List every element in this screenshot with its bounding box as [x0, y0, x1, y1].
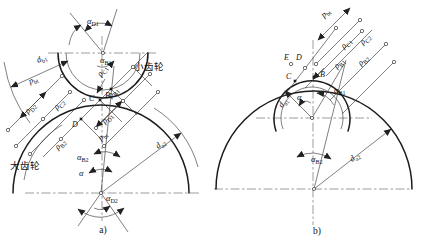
dimension-line	[326, 30, 372, 76]
point-label-b-b: B	[320, 70, 325, 79]
dimension-swing-arc-a	[4, 62, 30, 123]
rho-c1-arrow-a	[97, 79, 105, 93]
caption-b: b)	[313, 226, 321, 237]
d-a2-dim-line-a	[101, 133, 181, 193]
radial-line-O2-B	[101, 66, 114, 193]
point-label-e-b: E	[283, 53, 289, 62]
label-p-bt-b: pbt	[318, 6, 333, 21]
gear-diagram-canvas: αD1 αB1 db1 pbt ρD2 ρC2 ρC1 ρB1 ρD1 ρB2 …	[0, 0, 422, 251]
label-alpha-d1: αD1	[87, 16, 99, 27]
gear-outer-arc-a	[154, 108, 198, 167]
alpha-arc-a	[89, 169, 112, 173]
ring-gear-tip-arc-b	[216, 91, 412, 189]
label-alpha-b2-a: αB2	[77, 152, 88, 163]
label-d-a2-b: da2	[347, 150, 362, 165]
point-label-c-b: C	[286, 72, 292, 81]
label-rho-b1-b: ρB1	[331, 55, 347, 71]
d-b1-dim-line-a	[11, 61, 68, 87]
line-of-action-b	[284, 28, 336, 96]
gear-mesh-figure: αD1 αB1 db1 pbt ρD2 ρC2 ρC1 ρB1 ρD1 ρB2 …	[0, 0, 422, 251]
alpha-d1-line	[103, 9, 117, 53]
label-d-a2-a: da2	[153, 137, 168, 152]
alpha-b2-line-b	[314, 60, 346, 189]
label-alpha-b1-a: αB1	[100, 55, 111, 66]
point-label-b-a: B	[105, 91, 110, 100]
label-alpha-b: α	[297, 92, 302, 102]
label-rho-b2-b: ρB2	[355, 52, 371, 68]
point-label-c-a: C	[89, 94, 95, 103]
gear-center-a	[99, 191, 102, 194]
dimension-line	[316, 20, 360, 64]
line-of-action-b2	[305, 31, 362, 88]
point-label-d-b: D	[295, 53, 302, 62]
gear-center-b	[312, 187, 315, 190]
pinion-center-b	[310, 116, 313, 119]
point-label-d-a: D	[71, 120, 78, 129]
label-alpha-d2: αD2	[106, 193, 118, 204]
alpha-d1-swing-arc	[69, 25, 81, 45]
diagram-b: pbt ρC1 ρC2 ρB1 ρB2 E D C B αB1 α da1 αB…	[214, 6, 412, 237]
label-rho-c1-b: ρC1	[338, 35, 354, 51]
gear-name-label: 大齿轮	[10, 160, 40, 171]
alpha-b2-arc-a	[94, 152, 120, 157]
label-alpha-b2-b: αB2	[311, 154, 322, 165]
pinion-name-label: 小齿轮	[134, 61, 164, 72]
caption-a: a)	[99, 225, 106, 236]
diagram-a: αD1 αB1 db1 pbt ρD2 ρC2 ρC1 ρB1 ρD1 ρB2 …	[4, 9, 200, 236]
label-d-b1: db1	[35, 52, 49, 66]
label-alpha-a: α	[79, 168, 84, 178]
label-rho-c2-a: ρC2	[51, 96, 67, 112]
dimension-line	[342, 62, 394, 114]
